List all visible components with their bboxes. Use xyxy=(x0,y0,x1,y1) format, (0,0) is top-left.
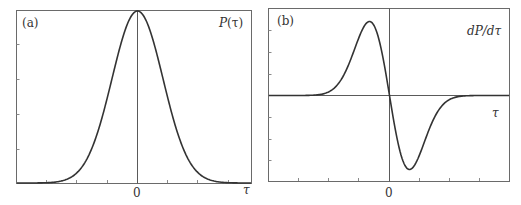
panel-b: (b) dP/dτ τ 0 xyxy=(269,9,510,201)
panel-a-gaussian-curve xyxy=(17,11,251,183)
panel-a-title: P(τ) xyxy=(218,16,243,30)
panel-b-zero-label: 0 xyxy=(385,186,393,200)
panel-a: (a) P(τ) 0 τ xyxy=(17,11,252,201)
panel-b-title: dP/dτ xyxy=(467,24,501,38)
panel-a-frame xyxy=(17,11,252,184)
panel-a-tau-label: τ xyxy=(243,183,250,197)
panel-b-label: (b) xyxy=(277,14,294,28)
figure: (a) P(τ) 0 τ (b) dP/dτ τ 0 xyxy=(0,0,521,205)
panel-a-label: (a) xyxy=(22,16,39,30)
panel-a-zero-label: 0 xyxy=(133,186,141,200)
panel-b-tau-label: τ xyxy=(492,106,499,120)
